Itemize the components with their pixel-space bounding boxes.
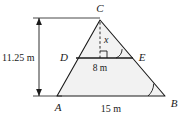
vertex-label-a: A: [54, 101, 62, 113]
geometry-canvas: 11.25 m x 8 m 15 m C D E A B: [0, 0, 184, 119]
vertex-label-e: E: [138, 51, 146, 63]
vertex-label-b: B: [171, 97, 178, 109]
total-height-label: 11.25 m: [2, 52, 35, 63]
dimension-arrowhead-top: [36, 18, 42, 25]
geometry-figure: 11.25 m x 8 m 15 m C D E A B: [0, 0, 184, 119]
vertex-label-c: C: [96, 2, 104, 14]
midsegment-length-label: 8 m: [93, 63, 108, 73]
vertex-label-d: D: [59, 51, 68, 63]
dimension-arrowhead-bottom: [36, 89, 42, 96]
base-length-label: 15 m: [101, 103, 122, 114]
upper-height-label: x: [103, 34, 109, 45]
